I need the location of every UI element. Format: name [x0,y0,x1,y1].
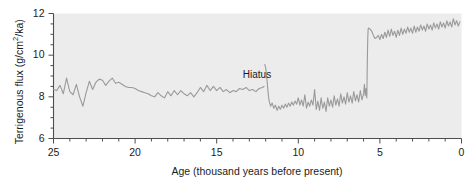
y-tick-label: 10 [0,48,45,60]
x-tick-label: 25 [34,146,74,158]
y-axis-label-suffix: /ka) [13,19,25,37]
x-tick-label: 20 [115,146,155,158]
x-tick-label: 15 [197,146,237,158]
chart-canvas [0,0,474,187]
y-tick-label: 6 [0,132,45,144]
x-tick-label: 5 [360,146,400,158]
y-tick-label: 8 [0,90,45,102]
y-axis-label-exponent: 2 [11,37,20,41]
terrigenous-flux-chart: Terrigenous flux (g/cm2/ka) Age (thousan… [0,0,474,187]
x-axis-label: Age (thousand years before present) [53,165,461,177]
annotation-hiatus: Hiatus [243,69,271,80]
y-tick-label: 12 [0,7,45,19]
x-tick-label: 0 [442,146,474,158]
x-tick-label: 10 [278,146,318,158]
